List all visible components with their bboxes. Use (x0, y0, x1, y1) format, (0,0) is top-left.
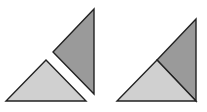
diagram-canvas (0, 0, 207, 112)
assembled-triangle-figure (117, 19, 196, 101)
separated-pieces-figure (6, 9, 94, 101)
